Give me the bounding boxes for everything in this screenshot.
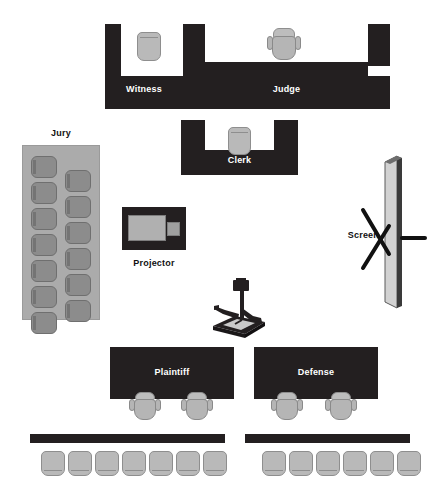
projector-glass-panel [128,215,166,241]
gallery-bar-left [30,434,225,443]
jury-seat [65,248,91,270]
clerk-label: Clerk [181,155,298,165]
witness-bench-right-post [183,24,205,76]
plaintiff-chair-arm-right [207,399,213,411]
jury-seat [31,208,57,230]
projection-screen-group: Screen [355,150,438,320]
clerk-chair [228,127,251,155]
plaintiff-chair-arm-right [155,399,161,411]
jury-seat [31,234,57,256]
jury-seat [31,182,57,204]
judge-chair-arm-right [295,36,301,49]
judge-label: Judge [205,84,368,94]
screen-label: Screen [333,230,379,240]
gallery-seat [203,451,227,476]
witness-label: Witness [105,84,183,94]
gallery-seat [95,451,119,476]
projector-lens-box [167,222,180,236]
jury-seat [31,156,57,178]
plaintiff-chair-body [186,399,208,420]
defense-chair-body [330,399,352,420]
jury-seat [65,300,91,322]
defense-chair [325,392,357,420]
gallery-seat [68,451,92,476]
judge-bench-front-rail [205,62,368,76]
jury-seat [65,196,91,218]
defense-chair-arm-right [351,399,357,411]
plaintiff-label: Plaintiff [110,367,234,377]
gallery-seat [397,451,421,476]
courtroom-diagram: Witness Judge Clerk Jury [0,0,438,488]
plaintiff-chair [129,392,161,420]
overhead-projector-icon [205,278,279,340]
witness-bench-left-post [105,24,121,76]
gallery-seat [262,451,286,476]
clerk-desk-right-post [274,120,298,150]
judge-chair [267,28,301,60]
defense-chair-body [276,399,298,420]
judge-chair-body [272,36,295,60]
gallery-seat [122,451,146,476]
witness-chair [137,32,161,61]
jury-seat [65,170,91,192]
gallery-seat [176,451,200,476]
gallery-bar-right [245,434,410,443]
gallery-seat [149,451,173,476]
gallery-seat [343,451,367,476]
gallery-seat [316,451,340,476]
jury-seat [31,286,57,308]
gallery-seat [370,451,394,476]
jury-box [22,145,100,320]
projector-label: Projector [118,258,190,268]
plaintiff-chair-body [134,399,156,420]
defense-label: Defense [254,367,378,377]
plaintiff-chair [181,392,213,420]
jury-label: Jury [22,128,100,138]
clerk-desk-left-post [181,120,205,150]
defense-chair [271,392,303,420]
jury-seat [65,274,91,296]
jury-seat [65,222,91,244]
jury-seat [31,312,57,334]
defense-chair-arm-right [297,399,303,411]
gallery-seat [41,451,65,476]
gallery-seat [289,451,313,476]
judge-bench-right-post [368,24,390,66]
jury-seat [31,260,57,282]
